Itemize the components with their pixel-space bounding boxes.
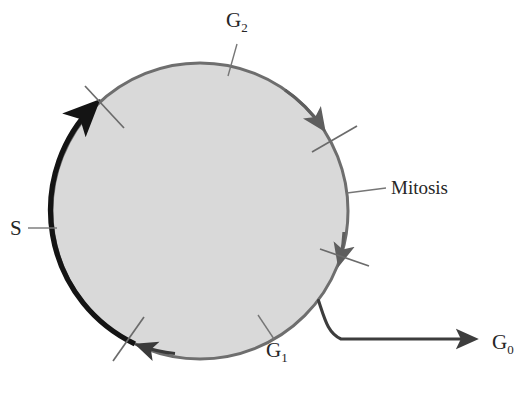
- leader-line-mitosis: [347, 188, 386, 193]
- cell-cycle-graphic: [0, 0, 521, 414]
- g0-branch-path: [319, 301, 473, 340]
- label-g2: G2: [226, 10, 248, 31]
- label-s-text: S: [10, 216, 22, 240]
- label-g0: G0: [492, 332, 514, 353]
- label-g2-subscript: 2: [241, 20, 248, 35]
- label-g1: G1: [266, 340, 288, 361]
- label-mitosis-text: Mitosis: [391, 177, 448, 198]
- label-s: S: [10, 218, 22, 239]
- label-mitosis: Mitosis: [391, 178, 448, 197]
- cell-cycle-diagram: G2 G1 G0 S Mitosis: [0, 0, 521, 414]
- label-g1-text: G: [266, 338, 281, 362]
- label-g0-subscript: 0: [507, 342, 514, 357]
- label-g2-text: G: [226, 8, 241, 32]
- label-g1-subscript: 1: [281, 350, 288, 365]
- label-g0-text: G: [492, 330, 507, 354]
